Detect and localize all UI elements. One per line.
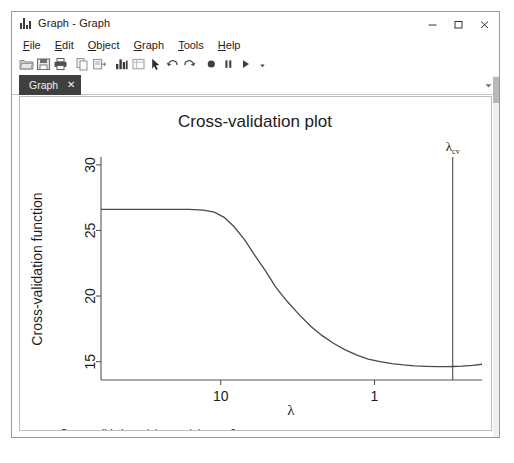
toolbar — [12, 54, 499, 74]
menu-item-file[interactable]: File — [16, 38, 48, 52]
tab-overflow-icon[interactable] — [484, 81, 493, 90]
footnote-1-symbol: αcv — [42, 428, 55, 431]
print-icon[interactable] — [52, 56, 69, 73]
menu-item-object[interactable]: Object — [81, 38, 127, 52]
tab-graph[interactable]: Graph ✕ — [19, 75, 81, 95]
tab-close-icon[interactable]: ✕ — [67, 80, 75, 90]
graph-canvas: Cross-validation plot 15202530 101 Cross… — [19, 96, 492, 431]
y-tick-label: 25 — [82, 222, 98, 238]
save-icon[interactable] — [35, 56, 52, 73]
footnote-1-text: Cross-validation minimum alpha. α=.2 — [60, 428, 236, 431]
y-axis-title: Cross-validation function — [29, 192, 45, 345]
undo-icon[interactable] — [164, 56, 181, 73]
maximize-button[interactable] — [445, 14, 471, 34]
lambda-cv-label: λcv — [446, 139, 460, 156]
minimize-button[interactable] — [419, 14, 445, 34]
x-tick-label: 10 — [213, 388, 229, 404]
y-tick-label: 20 — [82, 288, 98, 304]
menu-item-help[interactable]: Help — [211, 38, 248, 52]
menu-bar: File Edit Object Graph Tools Help — [12, 36, 499, 54]
footnote-block: αcv Cross-validation minimum alpha. α=.2… — [20, 428, 491, 431]
copy-icon[interactable] — [74, 56, 91, 73]
pause-icon[interactable] — [220, 56, 237, 73]
window-title: Graph - Graph — [38, 17, 110, 29]
scrollbar-thumb[interactable] — [493, 77, 499, 103]
more-icon[interactable] — [254, 56, 271, 73]
grid-icon[interactable] — [130, 56, 147, 73]
window-controls — [419, 14, 497, 34]
title-bar: Graph - Graph — [12, 12, 499, 36]
graph-icon[interactable] — [113, 56, 130, 73]
tab-graph-label: Graph — [29, 79, 58, 91]
tab-strip: Graph ✕ — [12, 75, 499, 95]
x-tick-label: 1 — [371, 388, 379, 404]
pointer-icon[interactable] — [147, 56, 164, 73]
plot-title: Cross-validation plot — [178, 112, 332, 131]
cross-validation-plot: Cross-validation plot 15202530 101 Cross… — [20, 97, 491, 430]
cv-function-curve — [101, 209, 482, 366]
open-icon[interactable] — [18, 56, 35, 73]
y-tick-label: 15 — [82, 354, 98, 370]
x-axis-title: λ — [287, 402, 295, 418]
bar-chart-icon — [20, 18, 32, 29]
menu-item-graph[interactable]: Graph — [127, 38, 172, 52]
close-button[interactable] — [471, 14, 497, 34]
redo-icon[interactable] — [181, 56, 198, 73]
screen: Graph - Graph File Edit Object Graph Too… — [0, 0, 514, 463]
menu-item-edit[interactable]: Edit — [48, 38, 81, 52]
record-icon[interactable] — [203, 56, 220, 73]
menu-item-tools[interactable]: Tools — [171, 38, 211, 52]
application-window: Graph - Graph File Edit Object Graph Too… — [11, 11, 500, 438]
y-axis-ticks: 15202530 — [82, 157, 101, 370]
x-axis-ticks: 101 — [213, 380, 379, 404]
y-tick-label: 30 — [82, 157, 98, 173]
play-icon[interactable] — [237, 56, 254, 73]
paste-icon[interactable] — [91, 56, 108, 73]
vertical-scrollbar[interactable] — [493, 75, 499, 437]
